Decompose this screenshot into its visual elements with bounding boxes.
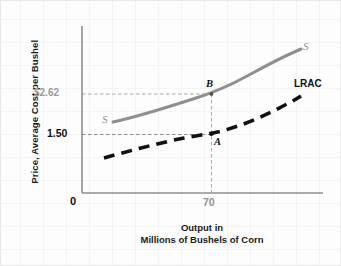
x-axis-title-line-2: Millions of Bushels of Corn bbox=[97, 234, 307, 246]
x-tick-label-70: 70 bbox=[203, 197, 215, 208]
supply-curve-label-right: S bbox=[303, 41, 309, 52]
y-tick-label-150: 1.50 bbox=[47, 128, 67, 139]
x-axis-title-line-1: Output in bbox=[97, 222, 307, 234]
economics-cost-chart: Price, Average Cost per Bushel $2.62 1.5… bbox=[0, 0, 341, 266]
y-axis-title: Price, Average Cost per Bushel bbox=[30, 32, 40, 192]
lrac-curve-label: LRAC bbox=[294, 79, 322, 89]
point-b-marker bbox=[210, 92, 214, 96]
x-tick-label-origin: 0 bbox=[70, 196, 76, 207]
lrac-curve bbox=[104, 96, 301, 158]
supply-curve-label-left: S bbox=[102, 114, 108, 125]
x-axis-title: Output in Millions of Bushels of Corn bbox=[97, 222, 307, 246]
point-b-label: B bbox=[206, 79, 213, 90]
point-a-label: A bbox=[214, 137, 221, 148]
y-tick-label-262: $2.62 bbox=[34, 88, 59, 98]
point-a-marker bbox=[209, 132, 213, 136]
